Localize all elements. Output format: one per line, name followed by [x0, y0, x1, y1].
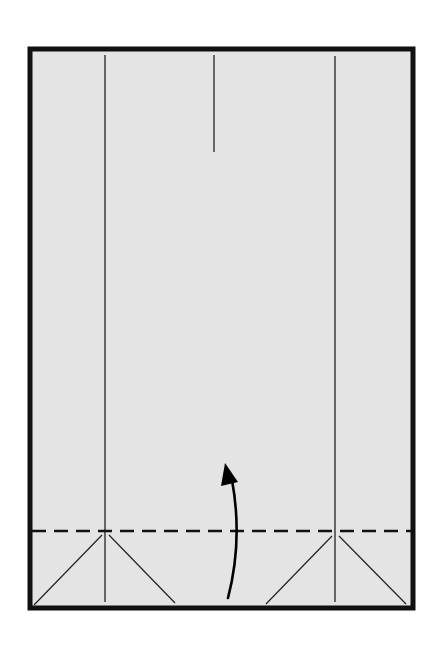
- origami-diagram: [0, 0, 445, 645]
- paper-sheet: [30, 49, 413, 608]
